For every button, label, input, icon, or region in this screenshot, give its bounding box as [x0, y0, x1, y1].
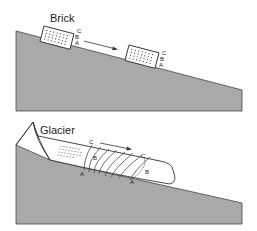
- glacier-panel: Glacier C B A C B: [16, 122, 242, 224]
- glacier-end-label-a: A: [130, 179, 134, 185]
- brick-panel: Brick C B A: [16, 12, 242, 111]
- glacier-end-label-c: C: [141, 153, 146, 159]
- brick-start-label-a: A: [75, 40, 79, 46]
- glacier-title: Glacier: [40, 124, 75, 136]
- motion-arrow-top: [84, 41, 118, 50]
- diagram-canvas: Brick C B A: [0, 0, 257, 231]
- glacier-start-label-c: C: [89, 139, 94, 145]
- brick-end-label-a: A: [159, 62, 163, 68]
- glacier-end-label-b: B: [145, 169, 149, 175]
- glacier-start-label-b: B: [93, 155, 97, 161]
- glacier-start-label-a: A: [80, 171, 84, 177]
- brick-title: Brick: [50, 12, 75, 24]
